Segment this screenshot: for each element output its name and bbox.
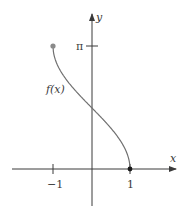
x-tick-label-neg1: −1	[47, 178, 63, 191]
chart-canvas: y x π −1 1 f(x)	[0, 0, 187, 217]
end-point-dot	[128, 167, 133, 172]
start-point-dot	[50, 43, 55, 48]
x-tick-label-1: 1	[127, 178, 134, 191]
x-axis-label: x	[170, 152, 177, 165]
y-axis-label: y	[95, 11, 103, 24]
y-tick-label-pi: π	[76, 40, 83, 53]
function-label: f(x)	[45, 83, 65, 96]
